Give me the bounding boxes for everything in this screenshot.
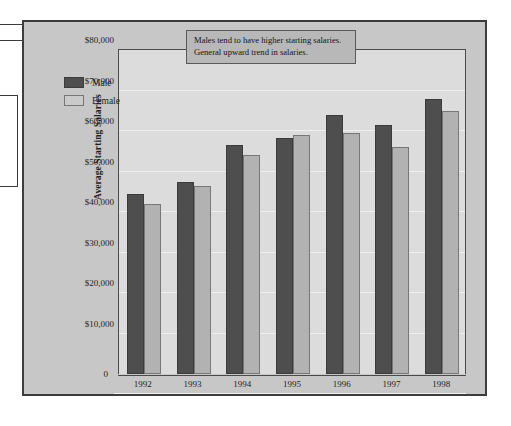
bar-female-1994 bbox=[243, 155, 260, 374]
legend-label-male: Male bbox=[92, 78, 112, 88]
page-rule-fragment-top bbox=[0, 24, 24, 25]
x-axis-line bbox=[118, 375, 466, 376]
chart-legend: Male Female bbox=[64, 77, 120, 113]
bar-group-1993 bbox=[177, 50, 211, 374]
bars-layer bbox=[119, 50, 465, 374]
bar-group-1996 bbox=[326, 50, 360, 374]
y-axis-tick-label: $80,000 bbox=[85, 35, 114, 45]
legend-swatch-female-icon bbox=[64, 95, 84, 106]
y-axis-zero-label: 0 bbox=[104, 369, 109, 379]
bar-group-1997 bbox=[375, 50, 409, 374]
y-axis-tick-label: $30,000 bbox=[85, 238, 114, 248]
bar-male-1995 bbox=[276, 138, 293, 374]
x-axis-tick-label-1995: 1995 bbox=[283, 379, 301, 389]
bar-male-1998 bbox=[425, 99, 442, 374]
annotation-line-1: Males tend to have higher starting salar… bbox=[194, 35, 349, 47]
x-axis-tick-labels: 1992199319941995199619971998 bbox=[118, 375, 466, 397]
y-axis-tick-label: $10,000 bbox=[85, 319, 114, 329]
bar-female-1998 bbox=[442, 111, 459, 374]
bar-female-1997 bbox=[392, 147, 409, 374]
bar-male-1993 bbox=[177, 182, 194, 374]
bar-group-1994 bbox=[226, 50, 260, 374]
x-axis-tick-label-1992: 1992 bbox=[134, 379, 152, 389]
x-axis-tick-label-1998: 1998 bbox=[432, 379, 450, 389]
page-rule-fragment-second bbox=[0, 40, 24, 41]
bar-male-1997 bbox=[375, 125, 392, 374]
bar-group-1995 bbox=[276, 50, 310, 374]
x-axis-tick-label-1997: 1997 bbox=[382, 379, 400, 389]
plot-area: $10,000$20,000$30,000$40,000$50,000$60,0… bbox=[118, 49, 466, 374]
legend-label-female: Female bbox=[92, 96, 120, 106]
chart-frame: Average Starting Salaries 0 $10,000$20,0… bbox=[22, 20, 487, 396]
x-axis-tick-label-1993: 1993 bbox=[184, 379, 202, 389]
x-axis-underline bbox=[114, 393, 466, 394]
annotation-line-2: General upward trend in salaries. bbox=[194, 47, 349, 59]
bar-group-1992 bbox=[127, 50, 161, 374]
annotation-callout: Males tend to have higher starting salar… bbox=[186, 30, 356, 64]
page-box-fragment bbox=[0, 95, 18, 187]
legend-item-female: Female bbox=[64, 95, 120, 106]
x-axis-tick-label-1996: 1996 bbox=[333, 379, 351, 389]
bar-female-1992 bbox=[144, 204, 161, 374]
bar-male-1996 bbox=[326, 115, 343, 374]
y-axis-tick-label: $60,000 bbox=[85, 116, 114, 126]
bar-female-1996 bbox=[343, 133, 360, 374]
bar-male-1994 bbox=[226, 145, 243, 374]
legend-item-male: Male bbox=[64, 77, 120, 88]
y-axis-tick-label: $40,000 bbox=[85, 197, 114, 207]
x-axis-tick-label-1994: 1994 bbox=[233, 379, 251, 389]
legend-swatch-male-icon bbox=[64, 77, 84, 88]
bar-female-1993 bbox=[194, 186, 211, 374]
y-axis-tick-label: $50,000 bbox=[85, 157, 114, 167]
bar-group-1998 bbox=[425, 50, 459, 374]
y-axis-tick-label: $20,000 bbox=[85, 278, 114, 288]
bar-male-1992 bbox=[127, 194, 144, 374]
bar-female-1995 bbox=[293, 135, 310, 374]
